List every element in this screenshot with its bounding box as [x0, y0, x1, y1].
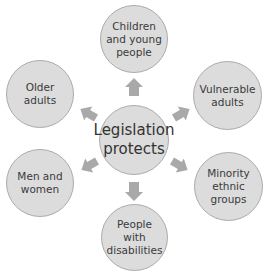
center-node: Legislation protects — [99, 105, 169, 175]
arrow-up-icon — [125, 78, 143, 96]
node-label: Vulnerable adults — [200, 83, 256, 109]
node-label: Minority ethnic groups — [207, 167, 250, 206]
node-label: Men and women — [17, 170, 62, 196]
node-children-and-young-people: Children and young people — [100, 5, 168, 73]
node-label: Older adults — [24, 81, 56, 107]
node-men-and-women: Men and women — [6, 149, 74, 217]
node-minority-ethnic-groups: Minority ethnic groups — [194, 152, 263, 221]
arrow-down-icon — [125, 182, 143, 201]
center-label: Legislation protects — [94, 121, 175, 159]
node-older-adults: Older adults — [6, 60, 74, 128]
node-vulnerable-adults: Vulnerable adults — [193, 61, 262, 130]
node-people-with-disabilities: People with disabilities — [101, 204, 168, 271]
node-label: People with disabilities — [107, 218, 163, 257]
node-label: Children and young people — [106, 20, 162, 59]
